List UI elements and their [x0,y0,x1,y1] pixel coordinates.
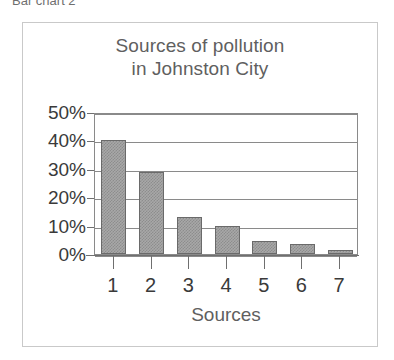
x-axis-tick-label: 2 [134,274,168,296]
bar [139,172,164,254]
x-axis-tick [301,256,302,269]
x-axis-tick-label: 1 [96,274,130,296]
y-axis-tick-label: 0% [20,245,86,264]
bar [252,241,277,254]
y-axis-tick-label: 40% [20,131,86,150]
x-axis-tick-label: 6 [284,274,318,296]
gridline [95,171,357,172]
bar [177,217,202,254]
x-axis-tick-label: 4 [209,274,243,296]
x-axis-tick-label: 5 [247,274,281,296]
gridline [95,142,357,143]
y-axis-labels: 0%10%20%30%40%50% [14,0,86,360]
y-axis-tick-label: 30% [20,160,86,179]
plot-area [94,113,358,255]
y-axis-tick-label: 20% [20,188,86,207]
gridline [95,199,357,200]
x-axis-tick-label: 3 [171,274,205,296]
x-axis-tick-label: 7 [322,274,356,296]
y-axis-tick-label: 50% [20,103,86,122]
bar [328,250,353,254]
x-axis-tick [151,256,152,269]
x-axis-line [86,255,359,256]
bar [290,244,315,254]
bar [215,226,240,254]
x-axis-tick [113,256,114,269]
x-axis-tick [339,256,340,269]
bar [101,140,126,254]
gridline [95,114,357,115]
x-axis-tick [264,256,265,269]
x-axis-title: Sources [94,304,358,326]
x-axis-tick [188,256,189,269]
x-axis-tick [226,256,227,269]
y-axis-tick-label: 10% [20,217,86,236]
